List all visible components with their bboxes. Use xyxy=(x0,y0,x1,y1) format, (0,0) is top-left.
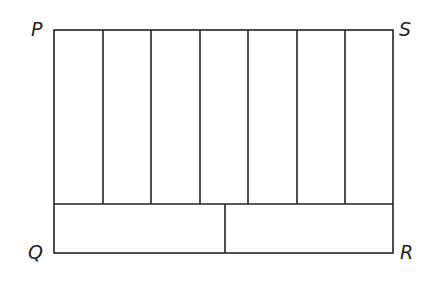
vertex-label-r: R xyxy=(400,243,413,262)
rectangle-diagram xyxy=(0,0,430,282)
vertex-label-p: P xyxy=(31,20,42,39)
vertex-label-q: Q xyxy=(28,243,43,262)
outer-rectangle-pqrs xyxy=(54,30,393,253)
vertex-label-s: S xyxy=(399,20,411,39)
